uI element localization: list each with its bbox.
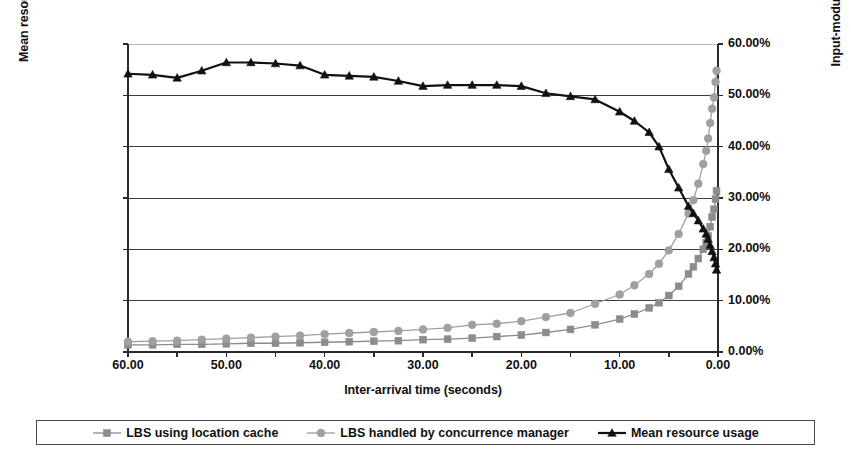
series-marker	[675, 283, 682, 290]
series-marker	[616, 291, 624, 299]
legend-circle-icon	[306, 426, 336, 440]
series-marker	[493, 320, 501, 328]
series-marker	[695, 255, 702, 262]
series-marker	[542, 313, 550, 321]
series-marker	[665, 165, 673, 173]
series-marker	[708, 105, 716, 113]
series-marker	[646, 304, 653, 311]
series-marker	[321, 339, 328, 346]
series-marker	[222, 335, 230, 343]
series-line	[128, 191, 717, 345]
series-marker	[321, 330, 329, 338]
series-marker	[699, 160, 707, 168]
series-marker	[297, 339, 304, 346]
series-marker	[370, 338, 377, 345]
series-marker	[444, 324, 452, 332]
series-marker	[272, 333, 280, 341]
series-marker	[675, 230, 683, 238]
series-marker	[124, 338, 132, 346]
series-marker	[296, 332, 304, 340]
chart-series	[124, 67, 720, 346]
series-marker	[704, 135, 712, 143]
series-marker	[707, 223, 714, 230]
chart-series	[125, 187, 720, 348]
y-axis-right-tick-label: 60.00%	[728, 36, 818, 50]
series-marker	[631, 311, 638, 318]
series-marker	[468, 321, 476, 329]
y-axis-right-tick-label: 20.00%	[728, 241, 818, 255]
series-marker	[645, 270, 653, 278]
series-marker	[346, 338, 353, 345]
series-marker	[710, 93, 718, 101]
series-marker	[469, 335, 476, 342]
series-marker	[420, 336, 427, 343]
x-axis-title-text: Inter-arrival time (seconds)	[344, 383, 502, 397]
series-marker	[198, 336, 206, 344]
series-marker	[567, 309, 575, 317]
series-marker	[706, 119, 714, 127]
series-marker	[665, 246, 673, 254]
legend-item[interactable]: LBS handled by concurrence manager	[306, 426, 569, 440]
chart-series	[124, 58, 721, 273]
series-marker	[712, 196, 719, 203]
series-marker	[173, 337, 181, 345]
series-marker	[567, 326, 574, 333]
series-marker	[709, 214, 716, 221]
series-marker	[493, 333, 500, 340]
legend-triangle-icon	[597, 426, 627, 440]
x-axis-tick-label: 50.00	[186, 358, 266, 372]
series-marker	[711, 206, 718, 213]
series-marker	[656, 299, 663, 306]
y-axis-right-tick-labels: 0.00%10.00%20.00%30.00%40.00%50.00%60.00…	[728, 0, 848, 380]
series-marker	[702, 147, 710, 155]
series-marker	[247, 334, 255, 342]
legend-item-label: LBS handled by concurrence manager	[340, 426, 569, 440]
series-marker	[149, 337, 157, 345]
series-marker	[630, 117, 638, 125]
series-marker	[674, 183, 682, 191]
y-axis-right-tick-label: 10.00%	[728, 293, 818, 307]
x-axis-tick-label: 0.00	[678, 358, 758, 372]
series-marker	[395, 337, 402, 344]
legend-item[interactable]: Mean resource usage	[597, 426, 759, 440]
chart-container: Mean resource usage Input-module usage I…	[0, 0, 851, 467]
y-axis-right-tick-label: 30.00%	[728, 190, 818, 204]
y-axis-left-tick-labels: 0.00%5.00%10.00%15.00%20.00%25.00%30.00%	[0, 0, 124, 380]
series-line	[128, 62, 717, 269]
x-axis-tick-label: 10.00	[580, 358, 660, 372]
x-axis-tick-label: 20.00	[481, 358, 561, 372]
series-marker	[272, 340, 279, 347]
legend-square-icon	[92, 426, 122, 440]
legend-item[interactable]: LBS using location cache	[92, 426, 278, 440]
chart-legend: LBS using location cacheLBS handled by c…	[36, 420, 815, 445]
series-marker	[685, 271, 692, 278]
series-marker	[395, 327, 403, 335]
series-marker	[700, 246, 707, 253]
series-marker	[419, 326, 427, 334]
y-axis-right-tick-label: 0.00%	[728, 344, 818, 358]
series-marker	[444, 336, 451, 343]
series-marker	[665, 292, 672, 299]
y-axis-right-tick-label: 40.00%	[728, 139, 818, 153]
y-axis-right-tick-label: 50.00%	[728, 87, 818, 101]
legend-item-label: Mean resource usage	[631, 426, 759, 440]
series-marker	[592, 321, 599, 328]
series-marker	[345, 329, 353, 337]
series-marker	[694, 180, 702, 188]
series-marker	[690, 196, 698, 204]
series-marker	[713, 67, 721, 75]
x-axis-tick-label: 30.00	[383, 358, 463, 372]
series-marker	[631, 281, 639, 289]
x-axis-tick-label: 40.00	[285, 358, 365, 372]
series-marker	[591, 300, 599, 308]
series-marker	[713, 187, 720, 194]
series-marker	[543, 329, 550, 336]
series-marker	[370, 328, 378, 336]
series-marker	[518, 332, 525, 339]
x-axis-tick-label: 60.00	[88, 358, 168, 372]
legend-item-label: LBS using location cache	[126, 426, 278, 440]
series-marker	[616, 316, 623, 323]
series-marker	[712, 78, 720, 86]
series-marker	[517, 317, 525, 325]
series-marker	[690, 263, 697, 270]
